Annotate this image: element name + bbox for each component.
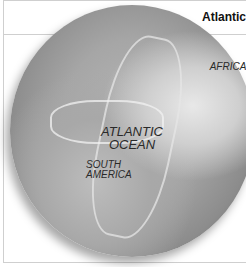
label-atlantic-ocean-line2: OCEAN [101,138,163,151]
label-south-america-line2: AMERICA [86,170,132,180]
label-africa: AFRICA [210,62,246,72]
globe-figure: AFRICA ATLANTIC OCEAN SOUTH AMERICA [10,5,246,265]
label-south-america: SOUTH AMERICA [86,160,132,180]
figure-title: Atlantic [202,10,246,24]
label-atlantic-ocean: ATLANTIC OCEAN [101,125,163,151]
